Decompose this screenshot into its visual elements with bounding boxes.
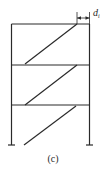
- diagonal-brace-story-1: [24, 106, 76, 145]
- frame-diagram: di (c): [0, 0, 107, 170]
- diagonal-brace-story-3: [25, 24, 77, 64]
- diagonal-brace-story-2: [25, 65, 77, 105]
- dimension-arrow-right: [86, 16, 90, 19]
- dimension-label: di: [93, 7, 100, 19]
- dimension-arrow-left: [77, 16, 81, 19]
- figure-caption: (c): [47, 153, 58, 165]
- dimension-label-subscript: i: [98, 13, 100, 19]
